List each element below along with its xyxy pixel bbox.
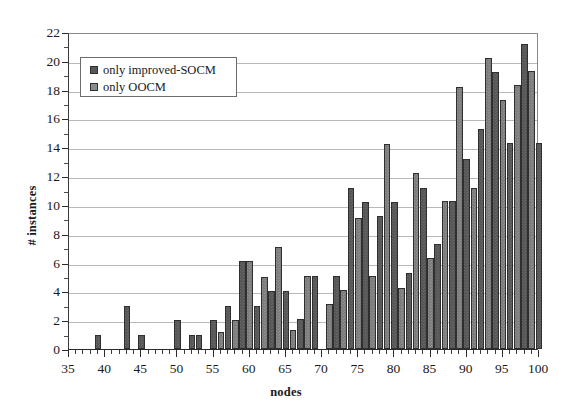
x-axis-tick [357, 350, 358, 357]
x-axis-minor-tick [372, 350, 373, 354]
x-tick-label: 50 [156, 362, 196, 376]
x-axis-minor-tick [90, 350, 91, 354]
x-axis-tick [393, 350, 394, 357]
x-axis-minor-tick [487, 350, 488, 354]
x-axis-minor-tick [133, 350, 134, 354]
x-axis-minor-tick [401, 350, 402, 354]
x-axis-minor-tick [234, 350, 235, 354]
x-axis-minor-tick [169, 350, 170, 354]
x-axis-minor-tick [299, 350, 300, 354]
x-axis-minor-tick [119, 350, 120, 354]
x-axis-minor-tick [509, 350, 510, 354]
x-axis-minor-tick [314, 350, 315, 354]
x-axis-minor-tick [495, 350, 496, 354]
x-axis-minor-tick [198, 350, 199, 354]
legend-swatch-icon [90, 66, 98, 74]
x-axis-minor-tick [415, 350, 416, 354]
x-axis-minor-tick [184, 350, 185, 354]
x-axis-minor-tick [524, 350, 525, 354]
x-axis-minor-tick [386, 350, 387, 354]
x-axis-minor-tick [148, 350, 149, 354]
legend-item: only improved-SOCM [90, 62, 236, 78]
x-axis-minor-tick [256, 350, 257, 354]
x-axis-minor-tick [444, 350, 445, 354]
x-tick-label: 100 [518, 362, 558, 376]
x-tick-label: 95 [482, 362, 522, 376]
x-axis-minor-tick [75, 350, 76, 354]
x-axis-tick [104, 350, 105, 357]
x-axis-minor-tick [191, 350, 192, 354]
legend-label: only OOCM [103, 81, 166, 94]
x-axis-tick [502, 350, 503, 357]
x-axis-minor-tick [328, 350, 329, 354]
x-axis-minor-tick [270, 350, 271, 354]
x-axis-minor-tick [336, 350, 337, 354]
x-axis-minor-tick [155, 350, 156, 354]
x-tick-label: 35 [48, 362, 88, 376]
x-axis-minor-tick [227, 350, 228, 354]
bar-chart: # instances 0246810121416182022 35404550… [0, 0, 572, 419]
x-axis-tick [285, 350, 286, 357]
x-axis-tick [213, 350, 214, 357]
x-axis-minor-tick [531, 350, 532, 354]
x-axis-minor-tick [364, 350, 365, 354]
x-axis-minor-tick [278, 350, 279, 354]
x-tick-label: 60 [229, 362, 269, 376]
legend-label: only improved-SOCM [103, 64, 216, 77]
x-axis-minor-tick [205, 350, 206, 354]
x-tick-label: 75 [337, 362, 377, 376]
x-axis-minor-tick [458, 350, 459, 354]
x-axis-minor-tick [82, 350, 83, 354]
x-axis-minor-tick [350, 350, 351, 354]
x-axis-minor-tick [111, 350, 112, 354]
x-tick-label: 40 [84, 362, 124, 376]
x-axis-minor-tick [126, 350, 127, 354]
x-axis-tick [430, 350, 431, 357]
x-tick-label: 65 [265, 362, 305, 376]
x-tick-label: 80 [373, 362, 413, 376]
x-axis-minor-tick [422, 350, 423, 354]
x-axis-minor-tick [162, 350, 163, 354]
x-tick-label: 85 [410, 362, 450, 376]
x-tick-label: 70 [301, 362, 341, 376]
x-axis-minor-tick [473, 350, 474, 354]
x-axis-minor-tick [437, 350, 438, 354]
x-axis-tick [321, 350, 322, 357]
x-axis-minor-tick [343, 350, 344, 354]
x-axis-minor-tick [307, 350, 308, 354]
legend-item: only OOCM [90, 79, 236, 95]
x-axis-minor-tick [242, 350, 243, 354]
x-axis-minor-tick [263, 350, 264, 354]
x-axis-tick [466, 350, 467, 357]
x-axis-tick [538, 350, 539, 357]
x-tick-label: 45 [120, 362, 160, 376]
x-tick-label: 55 [193, 362, 233, 376]
x-axis-minor-tick [480, 350, 481, 354]
x-axis-minor-tick [516, 350, 517, 354]
x-axis-tick [140, 350, 141, 357]
x-axis-tick [68, 350, 69, 357]
x-axis-minor-tick [220, 350, 221, 354]
legend-swatch-icon [90, 83, 98, 91]
x-axis-title: nodes [0, 385, 572, 400]
x-axis-minor-tick [408, 350, 409, 354]
x-axis-tick [176, 350, 177, 357]
x-axis-minor-tick [451, 350, 452, 354]
x-axis-minor-tick [97, 350, 98, 354]
x-axis-tick [249, 350, 250, 357]
x-tick-label: 90 [446, 362, 486, 376]
legend: only improved-SOCMonly OOCM [80, 57, 237, 97]
x-axis-minor-tick [292, 350, 293, 354]
x-axis-minor-tick [379, 350, 380, 354]
